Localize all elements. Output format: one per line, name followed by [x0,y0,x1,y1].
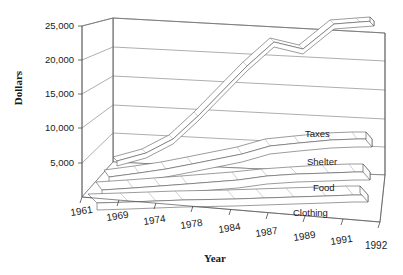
y-tick-label-20000: 20,000 [45,54,74,65]
x-tick-label-1961: 1961 [70,204,94,218]
y-axis-ticks [78,26,82,197]
series-label-food: Food [313,182,335,193]
x-tick-label-1969: 1969 [106,209,130,223]
x-tick-label-1987: 1987 [255,225,279,239]
x-tick-1991 [341,219,343,225]
y-tick-label-15000: 15,000 [45,88,74,99]
x-tick-label-1992: 1992 [365,240,388,251]
y-tick-label-25000: 25,000 [45,20,74,31]
x-axis-title: Year [204,252,226,264]
x-tick-1992 [378,222,380,228]
y-tick-labels: 25,000 20,000 15,000 10,000 5,000 [45,20,74,168]
series-label-shelter: Shelter [307,156,337,167]
y-axis-title: Dollars [12,70,24,105]
chart-container: 25,000 20,000 15,000 10,000 5,000 Dollar… [0,0,403,275]
x-tick-1987 [266,213,268,219]
x-tick-label-1991: 1991 [330,233,354,247]
x-tick-label-1984: 1984 [218,221,242,235]
x-tick-label-1978: 1978 [180,217,204,231]
x-tick-label-1974: 1974 [143,213,167,227]
x-tick-1984 [229,209,231,215]
y-tick-label-10000: 10,000 [45,122,74,133]
series-label-taxes: Taxes [305,128,330,139]
series-label-clothing: Clothing [293,207,328,218]
x-tick-label-1989: 1989 [293,229,317,243]
y-tick-label-5000: 5,000 [50,157,74,168]
x-tick-1961 [80,197,82,203]
ribbon-chart-3d: 25,000 20,000 15,000 10,000 5,000 Dollar… [0,0,403,275]
